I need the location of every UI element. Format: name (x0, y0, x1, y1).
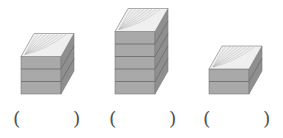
block-stack-3 (209, 46, 262, 94)
block-stack-1 (21, 34, 74, 95)
answer-2-open-paren: ( (109, 106, 116, 130)
answer-3-open-paren: ( (203, 106, 210, 130)
answer-2-close-paren: ) (169, 106, 176, 130)
answer-3-close-paren: ) (263, 106, 270, 130)
block-stack-2 (115, 9, 168, 95)
answer-1-close-paren: ) (73, 106, 80, 130)
block-stacks-figure (0, 0, 283, 138)
answer-1-open-paren: ( (13, 106, 20, 130)
